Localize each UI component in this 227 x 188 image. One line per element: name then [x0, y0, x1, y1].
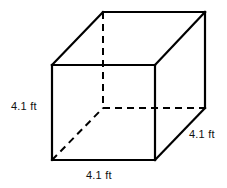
depth-edge-top-left [52, 12, 103, 65]
depth-edge-bottom-left-hidden [52, 108, 103, 160]
cube-wireframe-svg [0, 0, 227, 188]
front-face-edges [52, 65, 155, 160]
cube-figure: 4.1 ft 4.1 ft 4.1 ft [0, 0, 227, 188]
dimension-label-width: 4.1 ft [86, 169, 112, 181]
dimension-label-depth: 4.1 ft [189, 128, 215, 140]
dimension-label-height: 4.1 ft [11, 100, 37, 112]
depth-connector-edges [52, 12, 205, 160]
depth-edge-top-right [155, 12, 205, 65]
